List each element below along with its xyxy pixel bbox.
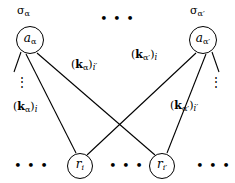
- node-r-i-label: ri: [76, 158, 84, 172]
- edge-a-alpha-prime-to-extra: [212, 52, 219, 72]
- edge-a-alpha-to-extra: [14, 52, 21, 72]
- edge-label-k-alpha-prime-i-prime: (kα′)i′: [170, 99, 198, 113]
- edge-label-k-alpha-i: (kα)i: [13, 100, 37, 114]
- top-center-ellipsis: • • •: [100, 12, 135, 25]
- node-r-i: ri: [67, 153, 93, 179]
- k-index-subscript: i′: [193, 103, 198, 113]
- left-vertical-dots: ⋮: [16, 76, 28, 88]
- bottom-right-ellipsis: • • •: [196, 159, 231, 172]
- graph-diagram: σα σα′ aα aα′ ri ri′ (kα)i′ (kα)i (kα′)i…: [0, 0, 235, 183]
- k-vector-symbol: k: [174, 99, 182, 112]
- node-a-alpha-prime: aα′: [189, 26, 217, 54]
- sigma-alpha-symbol: σ: [17, 4, 25, 17]
- node-a-alpha-prime-subscript: α′: [203, 38, 210, 47]
- bottom-center-ellipsis: • • •: [109, 159, 144, 172]
- k-vector-symbol: k: [75, 58, 83, 71]
- k-vector-symbol: k: [17, 100, 25, 113]
- sigma-alpha-subscript: α: [25, 9, 30, 18]
- k-index-subscript: i′: [93, 62, 98, 72]
- node-a-alpha-prime-label: aα′: [196, 32, 210, 46]
- node-r-i-subscript: i: [82, 164, 85, 173]
- edge-label-k-alpha-i-prime: (kα)i′: [71, 58, 97, 72]
- node-r-i-prime-label: ri′: [157, 158, 167, 172]
- right-vertical-dots: ⋮: [210, 76, 222, 88]
- bottom-left-ellipsis: • • •: [14, 159, 49, 172]
- sigma-alpha-label: σα: [17, 4, 30, 18]
- node-r-i-prime: ri′: [149, 153, 175, 179]
- edge-label-k-alpha-prime-i: (kα′)i: [131, 48, 157, 62]
- node-r-i-prime-subscript: i′: [163, 164, 167, 173]
- sigma-alpha-prime-label: σα′: [190, 4, 205, 18]
- node-a-alpha-label: aα: [24, 32, 37, 46]
- sigma-alpha-prime-symbol: σ: [190, 4, 198, 17]
- k-index-subscript: i: [154, 52, 157, 62]
- node-a-alpha-subscript: α: [31, 38, 36, 47]
- k-vector-symbol: k: [135, 48, 143, 61]
- sigma-alpha-prime-subscript: α′: [198, 9, 205, 18]
- k-index-subscript: i: [35, 104, 38, 114]
- node-a-alpha: aα: [16, 26, 44, 54]
